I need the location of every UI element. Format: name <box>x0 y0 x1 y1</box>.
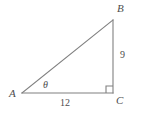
vertex-label-c: C <box>116 95 123 106</box>
vertex-label-b: B <box>117 3 124 14</box>
angle-label-theta: θ <box>43 80 48 90</box>
triangle-figure: A B C 9 12 θ <box>0 0 141 117</box>
side-length-label-horizontal: 12 <box>60 98 70 108</box>
side-length-label-vertical: 9 <box>120 50 125 60</box>
vertex-label-a: A <box>9 88 16 99</box>
right-angle-marker-icon <box>106 86 113 93</box>
triangle-side-hypotenuse <box>22 20 113 93</box>
